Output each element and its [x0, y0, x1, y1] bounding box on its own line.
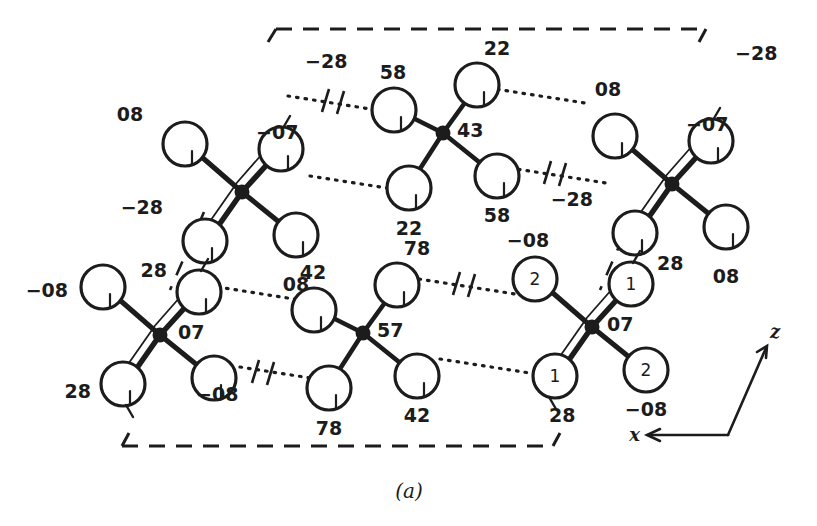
central-atom-bottom-left[interactable]	[153, 328, 168, 343]
figure-caption: (a)	[395, 479, 423, 503]
crystal-structure-figure: 08 −28 −28 08 −07 58 22 22 58	[0, 0, 817, 526]
label-bottom-left-upper-right: 28	[141, 259, 167, 281]
slash-marker-bottom-upper	[453, 272, 475, 297]
label-bottom-middle-lower-left: 78	[316, 417, 342, 439]
label-bottom-left-upper-left: −08	[26, 279, 68, 301]
molecular-unit-bottom-right: 2 1 1 2 −08 28 28 −08 07	[507, 229, 684, 426]
central-atom-bottom-middle[interactable]	[356, 326, 371, 341]
label-top-middle-center: 43	[457, 119, 483, 141]
slash-marker-bottom-lower	[252, 360, 274, 385]
atom-lower-left[interactable]	[307, 366, 351, 410]
atom-lower-right[interactable]	[274, 213, 318, 257]
label-bottom-right-upper-left: −08	[507, 229, 549, 251]
hbond-bottom-upper-2	[419, 279, 515, 294]
central-atom-top-right[interactable]	[665, 177, 680, 192]
hbond-bottom-lower-2	[440, 359, 536, 374]
leader-bl-atom	[126, 405, 133, 417]
corner-tick-bottom-left	[122, 433, 129, 446]
atom-upper-right[interactable]	[375, 263, 419, 307]
slash-marker-top-lower	[544, 161, 566, 186]
label-bottom-right-center: 07	[607, 313, 633, 335]
atom-lower-left[interactable]	[183, 219, 227, 263]
slash-marker-top-upper	[322, 89, 344, 114]
atom-upper-left[interactable]	[292, 288, 336, 332]
atom-upper-right[interactable]	[455, 63, 499, 107]
atom-upper-left[interactable]	[163, 122, 207, 166]
atom-lower-left[interactable]	[613, 211, 657, 255]
atom-lower-right[interactable]	[704, 205, 748, 249]
label-top-left-upper-left: 08	[117, 103, 143, 125]
label-bottom-left-lower-right: −08	[196, 383, 238, 405]
label-top-middle-lower-left: 22	[396, 217, 422, 239]
label-bottom-right-lower-right: −08	[625, 398, 667, 420]
label-top-left-center: −07	[256, 121, 298, 143]
hbond-top-lower-2	[510, 168, 606, 183]
axis-z-label: z	[769, 321, 781, 342]
molecular-unit-top-middle: 58 22 22 58 43	[372, 37, 519, 239]
label-top-middle-upper-left: 58	[380, 61, 406, 83]
atom-upper-left[interactable]	[372, 88, 416, 132]
atom-lower-right[interactable]	[395, 354, 439, 398]
atom-upper-left[interactable]	[593, 114, 637, 158]
label-bottom-right-upper-right: 28	[657, 252, 683, 274]
label-bottom-left-center: 07	[178, 321, 204, 343]
atom-number-lower-left: 1	[550, 366, 561, 386]
atom-number-upper-left: 2	[530, 269, 541, 289]
label-top-right-lower-right: 08	[713, 265, 739, 287]
hbond-top-upper-2	[489, 88, 585, 103]
atom-number-lower-right: 2	[641, 360, 652, 380]
label-bottom-middle-lower-right: 42	[404, 404, 430, 426]
label-top-middle-upper-right: 22	[484, 37, 510, 59]
label-bottom-middle-center: 57	[377, 319, 403, 341]
label-top-right-upper-left: 08	[595, 78, 621, 100]
label-top-left-upper-right: −28	[305, 50, 347, 72]
axis-z-shaft	[728, 348, 766, 435]
atom-lower-left[interactable]	[101, 362, 145, 406]
molecular-unit-top-right: 08 −28 −28 08 −07	[551, 42, 778, 287]
central-atom-top-middle[interactable]	[436, 126, 451, 141]
label-bottom-middle-upper-left: 42	[300, 261, 326, 283]
label-top-right-lower-left: −28	[551, 188, 593, 210]
atom-lower-right[interactable]	[475, 154, 519, 198]
label-bottom-right-lower-left: 28	[549, 404, 575, 426]
atom-upper-right[interactable]	[177, 270, 221, 314]
label-top-middle-lower-right: 58	[484, 204, 510, 226]
atom-lower-left[interactable]	[387, 166, 431, 210]
label-bottom-left-lower-left: 28	[65, 380, 91, 402]
molecular-unit-bottom-left: −08 28 28 −08 07	[26, 259, 239, 407]
hbond-top-upper-1	[288, 96, 383, 111]
label-top-right-upper-right: −28	[735, 42, 777, 64]
label-top-left-lower-left: −28	[121, 196, 163, 218]
central-atom-bottom-right[interactable]	[585, 320, 600, 335]
corner-tick-top-right	[699, 29, 706, 42]
atom-number-upper-right: 1	[626, 274, 637, 294]
corner-tick-top-left	[268, 29, 276, 42]
corner-tick-bottom-right	[553, 433, 560, 446]
molecular-unit-bottom-middle: 42 78 78 42 57	[292, 237, 439, 439]
label-bottom-middle-upper-right: 78	[404, 237, 430, 259]
axis-x-label: x	[628, 424, 640, 445]
label-top-right-center: −07	[686, 113, 728, 135]
atom-upper-left[interactable]	[81, 265, 125, 309]
central-atom-top-left[interactable]	[235, 185, 250, 200]
